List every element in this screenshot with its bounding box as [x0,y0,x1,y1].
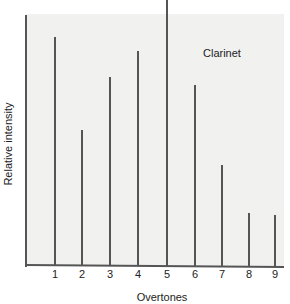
x-tick-label: 1 [48,268,62,280]
bar-overtone-4 [137,51,139,266]
y-axis-label: Relative intensity [2,89,14,199]
x-axis-label: Overtones [122,291,202,303]
series-label: Clarinet [203,47,241,59]
x-tick-label: 4 [131,268,145,280]
plot-area [26,14,284,266]
bar-overtone-1 [54,37,56,266]
x-tick-label: 8 [242,268,256,280]
x-tick-label: 9 [268,268,282,280]
bar-overtone-8 [248,213,250,266]
bar-overtone-5 [166,0,168,266]
x-tick-label: 6 [188,268,202,280]
bar-overtone-2 [81,130,83,266]
y-axis [25,15,27,267]
bar-overtone-7 [221,165,223,266]
x-tick-label: 7 [215,268,229,280]
x-tick-label: 5 [160,268,174,280]
bar-overtone-9 [274,215,276,266]
x-tick-label: 2 [75,268,89,280]
bar-overtone-3 [109,77,111,266]
bar-overtone-6 [194,85,196,266]
x-tick-label: 3 [103,268,117,280]
